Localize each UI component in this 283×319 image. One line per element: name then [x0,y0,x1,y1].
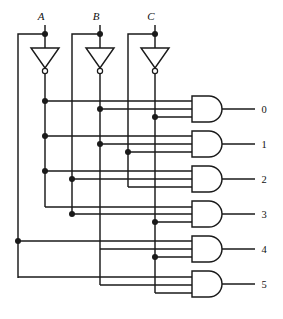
circuit-canvas: A B C [0,0,283,319]
output-label-4: 4 [261,244,267,255]
junction-anot-g1 [42,133,48,139]
junction-cnot-g3 [152,219,158,225]
junction-a-tap [42,31,48,37]
input-label-c: C [147,10,155,22]
and-gate-2: 2 [192,166,267,192]
junction-dots [15,31,158,260]
junction-bnot-g0 [97,106,103,112]
junction-c-tap [152,31,158,37]
input-label-b: B [93,10,100,22]
and-gate-1-wires [45,136,192,152]
junction-c-g1 [125,149,131,155]
junction-anot-g0 [42,98,48,104]
junction-cnot-g4 [152,254,158,260]
input-labels: A B C [37,10,156,22]
junction-b-tap [97,31,103,37]
and-gate-4: 4 [192,236,267,262]
and-gate-5-wires [18,277,192,293]
junction-b-g3 [69,211,75,217]
junction-b-g2 [69,176,75,182]
output-label-2: 2 [261,174,266,185]
and-gate-1: 1 [192,131,267,157]
inverter-a [31,48,59,207]
and-gate-2-wires [45,171,192,187]
logic-diagram: A B C [0,0,283,319]
and-gate-0-wires [45,101,192,117]
output-label-1: 1 [261,139,266,150]
and-gate-5: 5 [192,271,267,297]
and-gate-3: 3 [192,201,267,227]
junction-bnot-g1 [97,141,103,147]
output-label-0: 0 [261,104,266,115]
and-gate-0: 0 [192,96,267,122]
input-label-a: A [37,10,45,22]
and-gate-4-wires [18,241,192,257]
output-label-5: 5 [261,279,266,290]
junction-cnot-g0 [152,114,158,120]
junction-anot-g2 [42,168,48,174]
output-label-3: 3 [261,209,266,220]
and-gate-3-wires [45,207,192,222]
junction-a-g4 [15,238,21,244]
